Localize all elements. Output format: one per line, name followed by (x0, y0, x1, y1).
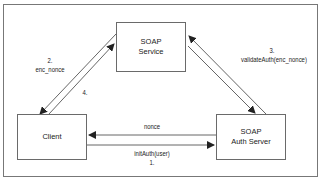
auth-server-label-2: Auth Server (231, 137, 271, 147)
step3-number: 3. (267, 46, 277, 55)
client-label: Client (42, 132, 61, 142)
auth-server-label-1: SOAP (241, 127, 262, 137)
arrow-validate-return (189, 36, 266, 114)
step2-label: enc_nonce (31, 65, 68, 74)
step1-number: 1. (147, 158, 157, 167)
soap-service-label-1: SOAP (141, 37, 162, 47)
step2-number: 2. (45, 56, 55, 65)
nonce-label: nonce (140, 122, 164, 131)
soap-service-node: SOAP Service (116, 22, 186, 72)
arrow-enc-nonce (49, 44, 114, 114)
step4-number: 4. (80, 88, 90, 97)
soap-service-label-2: Service (138, 47, 163, 57)
arrow-step4 (40, 34, 116, 114)
step3-label: validateAuth(enc_nonce) (240, 55, 308, 64)
step1-label: initAuth(user) (129, 149, 175, 158)
client-node: Client (17, 114, 87, 160)
auth-server-node: SOAP Auth Server (216, 114, 286, 160)
